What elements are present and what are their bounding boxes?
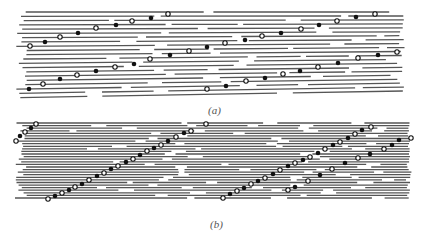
open-dot (306, 179, 310, 183)
fibre-line (23, 58, 106, 59)
open-dot (293, 161, 297, 165)
fibre-line (363, 87, 404, 88)
filled-dot (301, 158, 306, 163)
filled-dot (224, 84, 229, 89)
filled-dot (390, 143, 395, 148)
fibre-line (231, 79, 398, 81)
filled-dot (242, 186, 247, 191)
filled-dot (256, 179, 261, 184)
fibre-line (247, 63, 398, 65)
open-dot (189, 129, 193, 133)
filled-dot (53, 194, 58, 199)
filled-dot (29, 126, 34, 131)
filled-dot (354, 15, 359, 20)
panel-b-fibres (14, 122, 413, 201)
fibre-line (164, 70, 208, 71)
open-dot (316, 65, 320, 69)
filled-dot (397, 138, 402, 143)
panel-a-label: (a) (208, 104, 221, 116)
filled-dot (95, 174, 100, 179)
filled-dot (279, 31, 284, 36)
fibre-line (26, 70, 154, 72)
open-dot (23, 130, 27, 134)
filled-dot (149, 16, 154, 21)
fibre-line (308, 83, 400, 84)
open-dot (94, 26, 98, 30)
open-dot (281, 72, 285, 76)
filled-dot (376, 53, 381, 58)
open-dot (41, 82, 45, 86)
open-dot (204, 122, 208, 126)
open-dot (116, 164, 120, 168)
open-dot (60, 191, 64, 195)
filled-dot (316, 151, 321, 156)
filled-dot (336, 61, 341, 66)
fibre-line (102, 93, 277, 96)
open-dot (244, 79, 248, 83)
filled-dot (360, 128, 365, 133)
open-dot (87, 178, 91, 182)
fibre-line (249, 40, 352, 41)
open-dot (356, 156, 360, 160)
fibre-line (22, 29, 198, 30)
filled-dot (293, 185, 298, 190)
fibre-line (289, 72, 345, 73)
fibre-line (25, 74, 166, 76)
filled-dot (298, 69, 303, 74)
fibre-diagram (0, 0, 427, 242)
fibre-line (162, 82, 221, 83)
fibre-line (26, 54, 152, 55)
fibre-line (136, 41, 237, 42)
open-dot (249, 182, 253, 186)
fibre-line (139, 65, 234, 66)
open-dot (409, 136, 413, 140)
panel-b-label: (b) (210, 218, 223, 230)
open-dot (131, 157, 135, 161)
open-dot (148, 57, 152, 61)
open-dot (323, 147, 327, 151)
fibre-line (16, 45, 155, 46)
fibre-line (22, 37, 138, 38)
filled-dot (18, 134, 23, 139)
filled-dot (318, 173, 323, 178)
open-dot (235, 189, 239, 193)
fibre-line (257, 85, 299, 86)
filled-dot (109, 167, 114, 172)
filled-dot (243, 38, 248, 43)
open-dot (395, 50, 399, 54)
fibre-line (143, 61, 239, 62)
filled-dot (271, 172, 276, 177)
filled-dot (58, 77, 63, 82)
open-dot (278, 168, 282, 172)
fibre-line (21, 41, 120, 42)
open-dot (338, 140, 342, 144)
open-dot (205, 87, 209, 91)
filled-dot (114, 23, 119, 28)
open-dot (187, 49, 191, 53)
open-dot (14, 139, 18, 143)
filled-dot (228, 192, 233, 197)
fibre-line (27, 78, 203, 80)
fibre-line (254, 60, 386, 61)
open-dot (113, 65, 117, 69)
open-dot (58, 35, 62, 39)
filled-dot (138, 153, 143, 158)
open-dot (145, 149, 149, 153)
open-dot (263, 176, 267, 180)
filled-dot (27, 87, 32, 92)
filled-dot (331, 143, 336, 148)
fibre-line (219, 68, 349, 70)
filled-dot (43, 40, 48, 45)
fibre-line (19, 92, 85, 93)
open-dot (174, 135, 178, 139)
filled-dot (317, 23, 322, 28)
filled-dot (132, 62, 137, 67)
open-dot (356, 56, 360, 60)
filled-dot (182, 131, 187, 136)
fibre-line (19, 62, 132, 63)
fibre-line (167, 44, 330, 45)
open-dot (159, 143, 163, 147)
fibre-line (20, 96, 87, 97)
filled-dot (168, 53, 173, 58)
fibre-line (131, 86, 240, 88)
